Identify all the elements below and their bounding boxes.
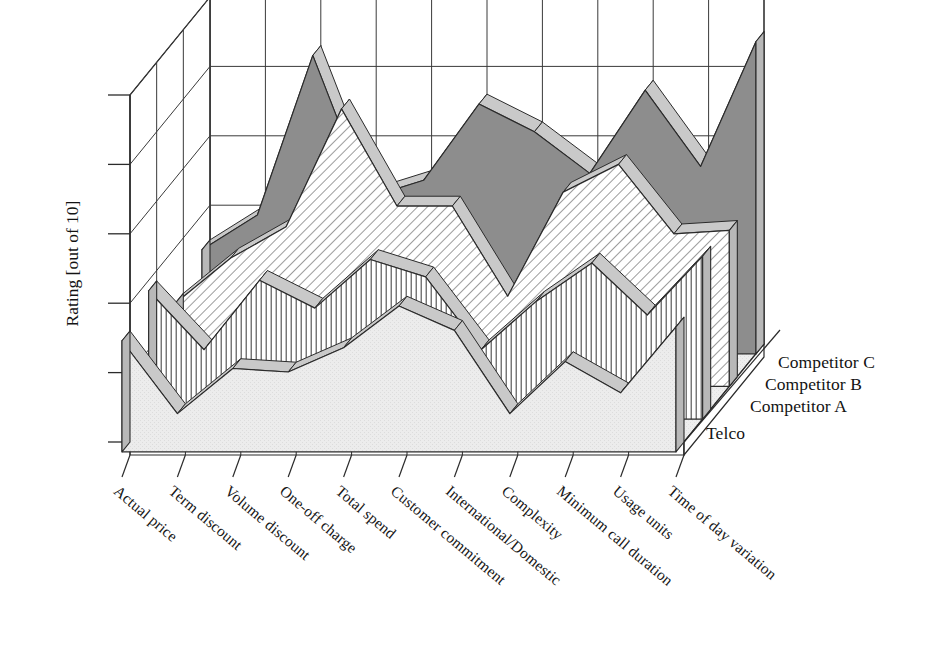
y-axis-title: Rating [out of 10] bbox=[62, 164, 83, 364]
series-label-competitor-b: Competitor B bbox=[765, 374, 862, 395]
series-label-competitor-a: Competitor A bbox=[750, 396, 847, 417]
series-label-competitor-c: Competitor C bbox=[778, 352, 875, 373]
chart-canvas: Rating [out of 10] Actual priceTerm disc… bbox=[0, 0, 951, 671]
series-label-telco: Telco bbox=[706, 423, 745, 444]
